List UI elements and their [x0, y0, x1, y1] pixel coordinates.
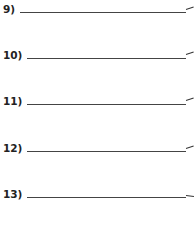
tick-mark: [186, 52, 194, 55]
answer-row-11: 11): [0, 95, 194, 115]
answer-line[interactable]: [27, 104, 186, 105]
answer-row-10: 10): [0, 49, 194, 69]
answer-line[interactable]: [20, 12, 186, 13]
item-number: 13): [3, 188, 22, 200]
item-number: 11): [3, 95, 22, 107]
tick-mark: [186, 7, 194, 10]
answer-line[interactable]: [27, 151, 186, 152]
answer-line[interactable]: [27, 58, 186, 59]
answer-row-12: 12): [0, 142, 194, 162]
answer-row-9: 9): [0, 3, 194, 23]
answer-line[interactable]: [27, 197, 186, 198]
answer-row-13: 13): [0, 188, 194, 208]
tick-mark: [186, 195, 194, 197]
item-number: 9): [3, 3, 15, 15]
tick-mark: [186, 146, 194, 149]
tick-mark: [186, 98, 194, 101]
item-number: 12): [3, 142, 22, 154]
item-number: 10): [3, 49, 22, 61]
